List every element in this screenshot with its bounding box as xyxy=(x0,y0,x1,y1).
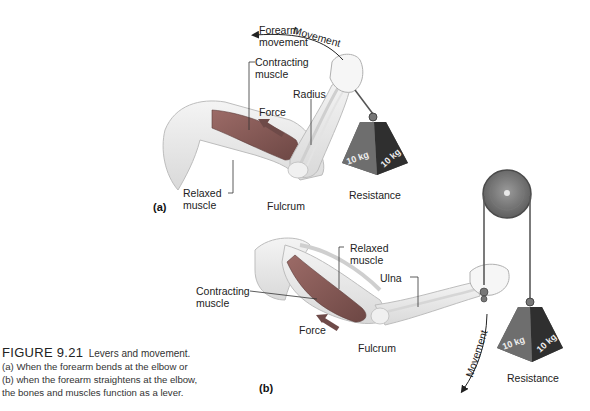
label-relaxed-muscle-a-line1: Relaxed xyxy=(183,187,222,199)
caption-line-1: (a) When the forearm bends at the elbow … xyxy=(2,360,232,373)
label-relaxed-muscle-a: Relaxed muscle xyxy=(183,187,222,211)
label-fulcrum-b: Fulcrum xyxy=(358,342,396,354)
caption-line-2: (b) when the forearm straightens at the … xyxy=(2,373,232,386)
panel-label-a: (a) xyxy=(153,201,166,213)
caption-heading: FIGURE 9.21 Levers and movement. xyxy=(2,346,232,360)
figure-number: FIGURE 9.21 xyxy=(2,345,83,360)
label-fulcrum-a: Fulcrum xyxy=(267,200,305,212)
label-contracting-muscle-b-line1: Contracting xyxy=(196,285,250,297)
label-relaxed-muscle-a-line2: muscle xyxy=(183,199,216,211)
label-radius: Radius xyxy=(293,88,326,100)
label-relaxed-muscle-b-line2: muscle xyxy=(350,254,383,266)
label-contracting-muscle-a: Contracting muscle xyxy=(255,56,309,80)
weight-b xyxy=(497,298,563,362)
figure-title: Levers and movement. xyxy=(89,348,191,359)
label-contracting-muscle-b-line2: muscle xyxy=(196,297,229,309)
label-relaxed-muscle-b-line1: Relaxed xyxy=(350,242,389,254)
label-resistance-a: Resistance xyxy=(349,189,401,201)
label-contracting-muscle-a-line1: Contracting xyxy=(255,56,309,68)
caption-line-3: the bones and muscles function as a leve… xyxy=(2,386,232,399)
panel-label-b: (b) xyxy=(259,382,273,394)
label-relaxed-muscle-b: Relaxed muscle xyxy=(350,242,389,266)
label-ulna: Ulna xyxy=(380,272,402,284)
label-contracting-muscle-a-line2: muscle xyxy=(255,68,288,80)
label-contracting-muscle-b: Contracting muscle xyxy=(196,285,250,309)
label-resistance-b: Resistance xyxy=(507,372,559,384)
figure-caption: FIGURE 9.21 Levers and movement. (a) Whe… xyxy=(2,346,232,399)
label-force-b: Force xyxy=(299,324,326,336)
label-force-a: Force xyxy=(259,106,286,118)
